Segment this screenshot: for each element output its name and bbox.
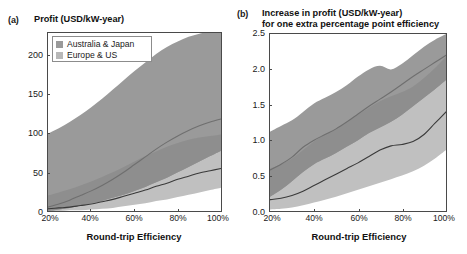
panel-b-title-line1: Increase in profit (USD/kW-year) xyxy=(262,8,402,20)
panel-b-xtickmark-80 xyxy=(403,209,404,212)
panel-b-ytickmark-15 xyxy=(269,105,272,106)
legend-label-europe-us: Europe & US xyxy=(67,50,117,61)
legend: Australia & Japan Europe & US xyxy=(52,36,152,62)
panel-b-xtick-80: 80% xyxy=(394,213,411,223)
panel-b-xtickmark-60 xyxy=(359,209,360,212)
panel-b-ytick-25: 2.5 xyxy=(232,28,265,38)
panel-a-xtick-20: 20% xyxy=(41,213,58,223)
panel-a-ytick-150: 150 xyxy=(8,89,43,99)
panel-b-xtick-60: 60% xyxy=(350,213,367,223)
panel-a-xaxis-title: Round-trip Efficiency xyxy=(87,231,182,242)
panel-a-ytickmark-200 xyxy=(47,55,50,56)
panel-b-xaxis-title: Round-trip Efficiency xyxy=(312,231,407,242)
panel-a-title: Profit (USD/kW-year) xyxy=(34,14,124,26)
legend-item-australia-japan: Australia & Japan xyxy=(56,39,147,50)
panel-a-ytickmark-50 xyxy=(47,173,50,174)
panel-b: (b) Increase in profit (USD/kW-year) for… xyxy=(232,0,467,254)
panel-a-ytick-50: 50 xyxy=(8,168,43,178)
legend-item-europe-us: Europe & US xyxy=(56,50,147,61)
legend-swatch-australia-japan xyxy=(56,41,63,48)
legend-swatch-europe-us xyxy=(56,52,63,59)
panel-a: (a) Profit (USD/kW-year) 0 50 100 150 20… xyxy=(0,0,232,254)
panel-a-ytick-0: 0 xyxy=(8,207,43,217)
panel-b-title-line2: for one extra percentage point efficienc… xyxy=(262,19,439,31)
panel-b-tag: (b) xyxy=(237,9,248,19)
panel-b-ytick-00: 0.0 xyxy=(232,207,265,217)
figure-container: (a) Profit (USD/kW-year) 0 50 100 150 20… xyxy=(0,0,467,254)
panel-a-xtick-100: 100% xyxy=(207,213,229,223)
panel-b-ytickmark-05 xyxy=(269,176,272,177)
panel-a-xtick-40: 40% xyxy=(81,213,98,223)
panel-a-ytickmark-150 xyxy=(47,94,50,95)
panel-b-ytick-15: 1.5 xyxy=(232,100,265,110)
panel-a-xtickmark-80 xyxy=(178,209,179,212)
panel-a-xtickmark-60 xyxy=(134,209,135,212)
panel-a-xtickmark-40 xyxy=(90,209,91,212)
panel-b-xtick-20: 20% xyxy=(263,213,280,223)
panel-b-ytick-10: 1.0 xyxy=(232,135,265,145)
panel-a-xtick-80: 80% xyxy=(169,213,186,223)
panel-b-xtickmark-40 xyxy=(314,209,315,212)
panel-b-xtick-40: 40% xyxy=(305,213,322,223)
panel-b-ytick-20: 2.0 xyxy=(232,64,265,74)
panel-b-plot-svg xyxy=(270,34,446,211)
panel-a-ytick-100: 100 xyxy=(8,128,43,138)
panel-b-ytick-05: 0.5 xyxy=(232,171,265,181)
panel-a-xtick-60: 60% xyxy=(125,213,142,223)
panel-a-ytick-200: 200 xyxy=(8,50,43,60)
panel-b-ytickmark-10 xyxy=(269,140,272,141)
panel-b-xtick-100: 100% xyxy=(433,213,455,223)
panel-b-ytickmark-20 xyxy=(269,69,272,70)
panel-a-ytickmark-100 xyxy=(47,133,50,134)
panel-a-tag: (a) xyxy=(8,15,19,25)
legend-label-australia-japan: Australia & Japan xyxy=(67,39,134,50)
panel-b-plot-area xyxy=(269,33,447,212)
